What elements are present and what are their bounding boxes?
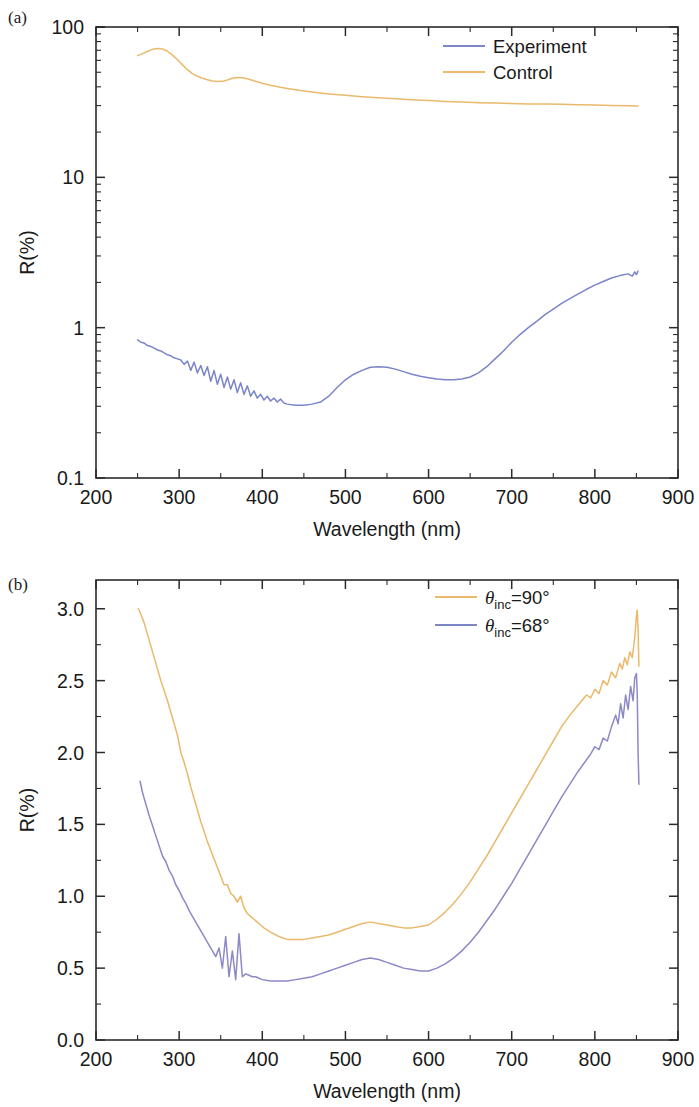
- panel-b-xtick-700: 700: [495, 1048, 528, 1070]
- panel-a-xtick-600: 600: [412, 486, 445, 508]
- panel-a-xtick-200: 200: [80, 486, 113, 508]
- panel-b-ytick-0-5: 0.5: [57, 957, 84, 979]
- panel-a: (a) 2003004005006007008009000.1110100Wav…: [0, 0, 699, 545]
- panel-a-ytick-100: 100: [51, 16, 84, 38]
- panel-b-xtick-600: 600: [412, 1048, 445, 1070]
- panel-b-ytick-2-0: 2.0: [57, 742, 84, 764]
- panel-b-ytick-1-0: 1.0: [57, 885, 84, 907]
- panel-a-yaxis-title: R(%): [16, 230, 38, 274]
- panel-b-xtick-300: 300: [163, 1048, 196, 1070]
- panel-a-xaxis-title: Wavelength (nm): [313, 518, 461, 540]
- panel-a-xtick-300: 300: [163, 486, 196, 508]
- panel-b-ytick-2-5: 2.5: [57, 670, 84, 692]
- figure-container: (a) 2003004005006007008009000.1110100Wav…: [0, 0, 699, 1107]
- panel-a-legend-label-experiment: Experiment: [493, 36, 587, 57]
- panel-a-xtick-800: 800: [579, 486, 612, 508]
- panel-a-xtick-900: 900: [662, 486, 695, 508]
- panel-a-ytick-1: 1: [73, 317, 84, 339]
- panel-b: (b) 2003004005006007008009000.00.51.01.5…: [0, 553, 699, 1107]
- panel-b-plot: 2003004005006007008009000.00.51.01.52.02…: [0, 553, 699, 1107]
- panel-a-ytick-10: 10: [62, 166, 84, 188]
- panel-a-legend-label-control: Control: [493, 62, 553, 83]
- panel-b-xtick-400: 400: [246, 1048, 279, 1070]
- panel-b-xtick-200: 200: [80, 1048, 113, 1070]
- panel-a-xtick-700: 700: [495, 486, 528, 508]
- panel-b-ytick-3-0: 3.0: [57, 598, 84, 620]
- panel-b-yaxis-title: R(%): [16, 788, 38, 832]
- panel-b-xtick-900: 900: [662, 1048, 695, 1070]
- panel-a-xtick-400: 400: [246, 486, 279, 508]
- panel-b-ytick-0-0: 0.0: [57, 1029, 84, 1051]
- panel-a-plot: 2003004005006007008009000.1110100Wavelen…: [0, 0, 699, 545]
- panel-b-ytick-1-5: 1.5: [57, 813, 84, 835]
- panel-a-ytick-0.1: 0.1: [57, 467, 84, 489]
- panel-b-xaxis-title: Wavelength (nm): [313, 1080, 461, 1102]
- panel-b-xtick-500: 500: [329, 1048, 362, 1070]
- panel-b-xtick-800: 800: [579, 1048, 612, 1070]
- panel-a-xtick-500: 500: [329, 486, 362, 508]
